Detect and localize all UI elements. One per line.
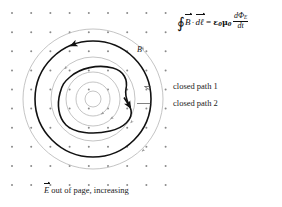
b-field-label: B — [137, 46, 142, 54]
equation-mu-zero: μ0 — [222, 17, 232, 27]
equation-epsilon-zero: ε0 — [213, 17, 222, 27]
leader-lines — [137, 87, 151, 104]
contour-integral-icon: ∮ — [177, 14, 185, 32]
field-line-direction-arrows — [65, 48, 144, 151]
caption-e-vector: E — [44, 186, 49, 195]
ampere-maxwell-equation: ∮B·dℓ = ε0μ0 dΦE dt — [177, 12, 248, 32]
field-line-circle — [51, 57, 135, 141]
field-line-circle — [76, 82, 110, 116]
caption: E out of page, increasing — [44, 186, 129, 195]
field-line-circle — [85, 91, 101, 107]
equation-b-vector: B — [185, 17, 191, 27]
closed-path-2-label: closed path 2 — [173, 99, 218, 108]
closed-path-1-label: closed path 1 — [173, 82, 218, 91]
equation-equals: = — [206, 17, 211, 27]
equation-flux-derivative: dΦE dt — [233, 12, 248, 31]
e-field-dot-grid — [11, 0, 167, 186]
magnetic-field-lines — [23, 29, 163, 169]
equation-dot-operator: · — [192, 17, 195, 27]
closed-path-1-curve — [35, 41, 151, 157]
field-line-circle — [23, 29, 163, 169]
equation-flux-denominator: dt — [233, 22, 248, 31]
equation-dl-vector: dℓ — [196, 17, 204, 27]
ampere-maxwell-figure: B closed path 1 closed path 2 E out of p… — [0, 0, 282, 207]
caption-text: out of page, increasing — [51, 185, 128, 195]
